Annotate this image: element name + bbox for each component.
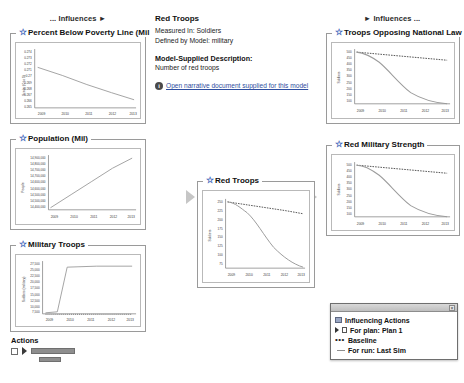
- y-axis-label: Soldiers: [208, 229, 212, 241]
- plot-military-troops[interactable]: Soldiers (military) 27,500 25,000 22,500…: [15, 254, 141, 327]
- svg-text:2013: 2013: [127, 215, 135, 219]
- chart-title-red-military-strength[interactable]: ☆ Red Military Strength: [332, 140, 427, 149]
- favorite-star-icon[interactable]: ☆: [19, 28, 27, 37]
- svg-text:300: 300: [347, 74, 352, 78]
- svg-text:20,000: 20,000: [30, 280, 40, 284]
- play-icon[interactable]: [22, 347, 27, 355]
- svg-text:17,500: 17,500: [30, 286, 40, 290]
- favorite-star-icon[interactable]: ☆: [19, 240, 27, 249]
- y-axis-label: People: [21, 182, 25, 193]
- chart-title-poverty[interactable]: ☆ Percent Below Poverty Line (Mil: [16, 28, 152, 37]
- chart-title-population[interactable]: ☆ Population (Mil): [16, 134, 91, 143]
- chart-panel-military-troops[interactable]: ☆ Military Troops Soldiers (military) 27…: [10, 240, 146, 332]
- chart-panel-red-military-strength[interactable]: ☆ Red Military Strength Soldiers 500 450…: [326, 140, 460, 236]
- svg-text:350: 350: [347, 68, 352, 72]
- actions-title: Actions: [11, 336, 133, 345]
- legend-item-baseline[interactable]: ••• Baseline: [335, 335, 453, 345]
- svg-text:500: 500: [347, 50, 352, 54]
- svg-text:2010: 2010: [62, 112, 70, 116]
- svg-text:100: 100: [218, 253, 223, 257]
- legend-titlebar[interactable]: ×: [331, 304, 457, 312]
- chart-panel-opposing-law[interactable]: ☆ Troops Opposing National Law Soldiers …: [326, 28, 460, 124]
- svg-text:2010: 2010: [378, 109, 386, 113]
- y-axis-label: Soldiers (military): [22, 277, 26, 303]
- svg-text:2010: 2010: [70, 215, 78, 219]
- svg-text:0.271: 0.271: [24, 68, 32, 72]
- svg-text:250: 250: [347, 194, 352, 198]
- x-ticks: 2009 2010 2011 2012 2013: [46, 318, 134, 322]
- actions-row[interactable]: [11, 347, 133, 355]
- chart-title-text: Military Troops: [28, 240, 85, 249]
- svg-text:2010: 2010: [378, 222, 386, 226]
- close-icon[interactable]: ×: [449, 305, 455, 311]
- action-bar-secondary[interactable]: [39, 357, 61, 362]
- chart-panel-red-troops[interactable]: ☆ Red Troops Soldiers 250 225 200 175 15…: [197, 176, 315, 288]
- panel-body: Soldiers (military) 27,500 25,000 22,500…: [15, 254, 141, 327]
- svg-text:27,500: 27,500: [30, 262, 40, 266]
- svg-text:150: 150: [218, 235, 223, 239]
- svg-text:2013: 2013: [441, 109, 449, 113]
- y-ticks: 500 450 400 350 300 250 200 150 100: [347, 163, 352, 216]
- chart-title-military-troops[interactable]: ☆ Military Troops: [16, 240, 88, 249]
- legend-window[interactable]: × Influencing Actions For plan: Plan 1 •…: [330, 303, 458, 360]
- chart-panel-poverty[interactable]: ☆ Percent Below Poverty Line (Mil Scalar…: [10, 28, 146, 124]
- svg-text:200: 200: [347, 200, 352, 204]
- svg-text:500: 500: [347, 163, 352, 167]
- measured-in: Measured In: Soldiers: [155, 26, 315, 36]
- svg-text:0.274: 0.274: [24, 50, 32, 54]
- plot-red-troops[interactable]: Soldiers 250 225 200 175 150 125 100 75 …: [202, 190, 310, 283]
- chart-title-text: Red Troops: [215, 176, 259, 185]
- favorite-star-icon[interactable]: ☆: [19, 134, 27, 143]
- plot-svg-red-military-strength: Soldiers 500 450 400 350 300 250 200 150…: [332, 155, 454, 230]
- svg-text:300: 300: [347, 187, 352, 191]
- panel-body: Soldiers 500 450 400 350 300 250 200 150…: [331, 42, 455, 119]
- svg-text:2012: 2012: [109, 112, 117, 116]
- svg-text:0.269: 0.269: [24, 80, 32, 84]
- y-axis-label: Soldiers: [337, 183, 341, 195]
- narrative-document-link[interactable]: Open narrative document supplied for thi…: [166, 82, 308, 89]
- action-checkbox[interactable]: [11, 348, 18, 355]
- legend-item-influencing-actions[interactable]: Influencing Actions: [335, 315, 453, 325]
- plot-poverty[interactable]: Scalar (0 to 1) 0.274 0.273 0.272 0.271 …: [15, 42, 141, 119]
- legend-item-for-plan[interactable]: For plan: Plan 1: [335, 325, 453, 335]
- plot-red-military-strength[interactable]: Soldiers 500 450 400 350 300 250 200 150…: [331, 154, 455, 231]
- x-ticks: 2009 2010 2011 2012 2013: [357, 109, 449, 113]
- x-ticks: 2009 2010 2011 2012 2013: [38, 112, 137, 116]
- svg-text:2010: 2010: [66, 318, 74, 322]
- svg-text:0.272: 0.272: [24, 62, 32, 66]
- plot-svg-poverty: Scalar (0 to 1) 0.274 0.273 0.272 0.271 …: [16, 43, 140, 118]
- svg-text:14,800,000: 14,800,000: [30, 162, 45, 166]
- narrative-link-row[interactable]: i Open narrative document supplied for t…: [155, 82, 315, 90]
- svg-text:2011: 2011: [400, 109, 407, 113]
- svg-text:2013: 2013: [297, 273, 305, 277]
- favorite-star-icon[interactable]: ☆: [335, 140, 343, 149]
- svg-text:14,700,000: 14,700,000: [30, 174, 45, 178]
- svg-text:2010: 2010: [245, 273, 253, 277]
- plot-svg-military-troops: Soldiers (military) 27,500 25,000 22,500…: [16, 255, 140, 326]
- svg-text:2012: 2012: [108, 318, 116, 322]
- chart-title-red-troops[interactable]: ☆ Red Troops: [203, 176, 262, 185]
- svg-text:350: 350: [347, 181, 352, 185]
- svg-text:2009: 2009: [357, 109, 365, 113]
- legend-item-for-run[interactable]: For run: Last Sim: [335, 345, 453, 355]
- plot-svg-red-troops: Soldiers 250 225 200 175 150 125 100 75 …: [203, 191, 309, 282]
- series-last-sim: [50, 158, 132, 208]
- plot-opposing-law[interactable]: Soldiers 500 450 400 350 300 250 200 150…: [331, 42, 455, 119]
- y-ticks: 500 450 400 350 300 250 200 150 100: [347, 50, 352, 103]
- svg-text:2011: 2011: [263, 273, 270, 277]
- solid-line-icon: [337, 350, 345, 351]
- chart-panel-population[interactable]: ☆ Population (Mil) People 14,900,000 14,…: [10, 134, 146, 230]
- flag-icon: [335, 317, 342, 323]
- svg-text:7,500: 7,500: [32, 310, 40, 314]
- svg-text:100: 100: [347, 212, 352, 216]
- plot-population[interactable]: People 14,900,000 14,800,000 14,700,000 …: [15, 148, 141, 225]
- action-bar-primary[interactable]: [31, 348, 75, 354]
- svg-text:2013: 2013: [126, 318, 134, 322]
- panel-body: Soldiers 250 225 200 175 150 125 100 75 …: [202, 190, 310, 283]
- favorite-star-icon[interactable]: ☆: [335, 28, 343, 37]
- legend-body: Influencing Actions For plan: Plan 1 •••…: [331, 312, 457, 359]
- plot-svg-opposing-law: Soldiers 500 450 400 350 300 250 200 150…: [332, 43, 454, 118]
- chart-title-opposing-law[interactable]: ☆ Troops Opposing National Law: [332, 28, 464, 37]
- favorite-star-icon[interactable]: ☆: [206, 176, 214, 185]
- svg-text:14,500,000: 14,500,000: [30, 199, 45, 203]
